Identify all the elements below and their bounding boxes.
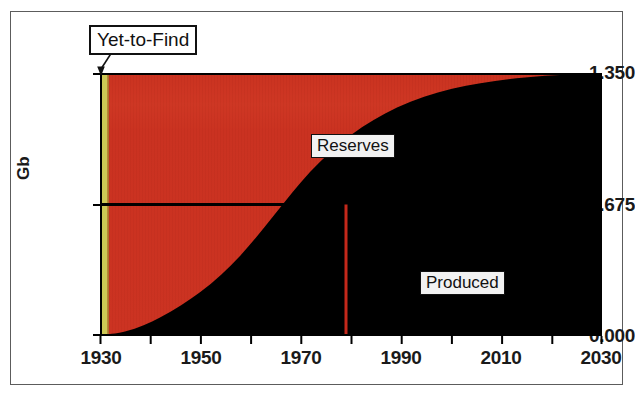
oil-depletion-chart-figure: Gb 1.350 0.675 0.000 1930 1950 1970 1990… [0,0,635,397]
callout-yet-to-find: Yet-to-Find [89,25,197,55]
series-label-reserves: Reserves [311,134,395,158]
series-label-produced: Produced [420,271,505,295]
plot-area [100,73,602,336]
area-chart-canvas [100,73,602,336]
